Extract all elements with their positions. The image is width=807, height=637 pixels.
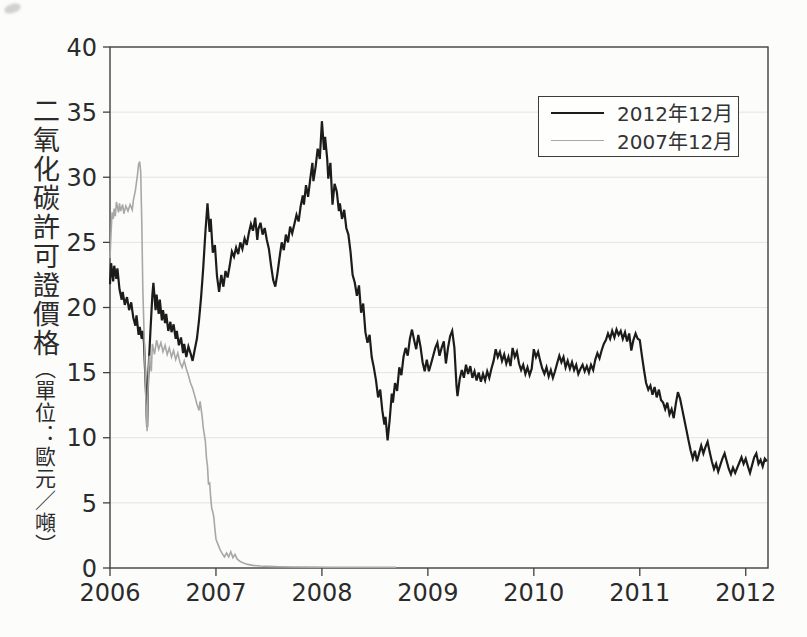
legend-line-sample-2007 [551,140,604,141]
legend-item: 2007年12月 [551,129,738,153]
y-tick-label-15: 15 [66,359,97,387]
x-tick-label-2009: 2009 [397,579,458,607]
series-line-2012年12月 [110,121,767,474]
co2-price-chart: 二氧化碳許可證價格（單位：歐元／噸） 051015202530354020062… [0,0,807,637]
y-axis-title-text: 二氧化碳許可證價格 [29,97,60,358]
series-lines [110,121,767,567]
y-tick-label-20: 20 [66,294,97,322]
x-tick-label-2007: 2007 [185,579,246,607]
y-tick-label-25: 25 [66,229,97,257]
x-tick-label-2012: 2012 [715,579,776,607]
series-line-2007年12月 [110,162,396,568]
legend-line-sample-2012 [551,112,604,114]
y-axis-unit-text: （單位：歐元／噸） [32,358,62,556]
y-tick-label-40: 40 [66,34,97,62]
x-tick-label-2011: 2011 [609,579,670,607]
legend-item-label: 2007年12月 [617,126,733,155]
y-tick-label-35: 35 [66,99,97,127]
y-axis-title: 二氧化碳許可證價格（單位：歐元／噸） [31,97,58,556]
y-tick-label-5: 5 [82,490,97,518]
gridlines [110,112,768,503]
x-tick-label-2008: 2008 [291,579,352,607]
legend-item: 2012年12月 [551,101,738,125]
x-tick-label-2010: 2010 [503,579,564,607]
legend: 2012年12月 2007年12月 [538,96,739,157]
legend-item-label: 2012年12月 [617,98,733,127]
y-tick-label-30: 30 [66,164,97,192]
y-tick-label-10: 10 [66,424,97,452]
x-tick-label-2006: 2006 [79,579,140,607]
